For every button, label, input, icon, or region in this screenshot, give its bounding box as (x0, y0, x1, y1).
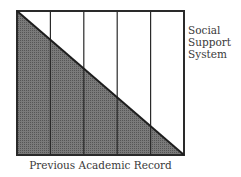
side-label-line: System (188, 48, 231, 60)
social-support-label: Social Support System (188, 24, 231, 60)
side-label-line: Social (188, 24, 231, 36)
academic-record-label: Previous Academic Record (17, 159, 184, 171)
side-label-line: Support (188, 36, 231, 48)
